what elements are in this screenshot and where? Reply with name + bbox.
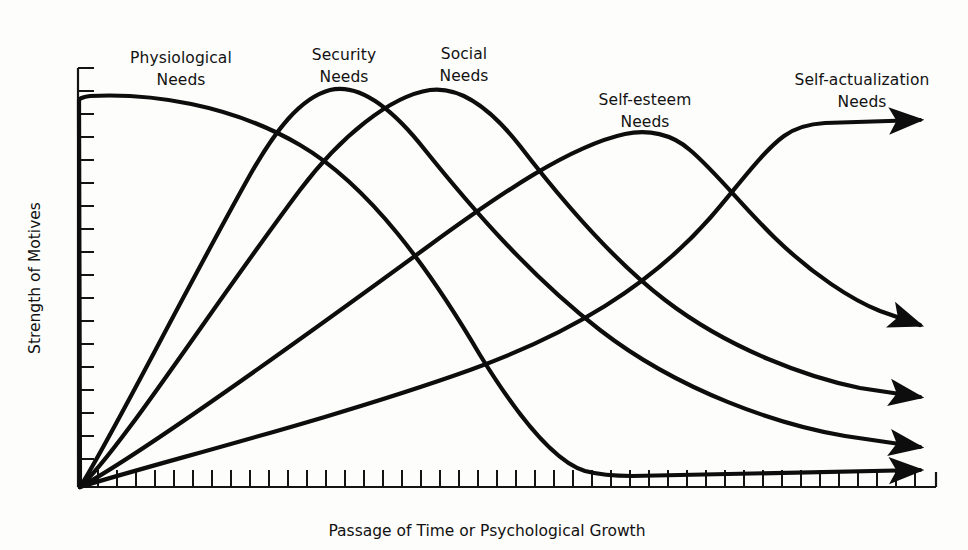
annotation-physiological-line2: Needs (156, 71, 205, 89)
annotation-self-esteem-line1: Self-esteem (599, 91, 692, 109)
annotation-security: Security Needs (312, 46, 376, 86)
annotation-physiological: Physiological Needs (130, 49, 232, 89)
y-axis-title: Strength of Motives (26, 202, 44, 354)
curve-self-actualization-needs (80, 120, 920, 487)
curve-security-needs (80, 89, 920, 487)
curve-self-esteem-needs (80, 132, 920, 487)
chart-svg: Physiological Needs Security Needs Socia… (0, 0, 968, 550)
curve-physiological-needs (79, 96, 920, 487)
curve-social-needs (80, 90, 920, 487)
annotation-self-actualization-line1: Self-actualization (794, 71, 929, 89)
annotation-security-line1: Security (312, 46, 376, 64)
annotation-social-line1: Social (441, 45, 488, 63)
x-axis-title: Passage of Time or Psychological Growth (328, 522, 645, 540)
annotation-self-esteem: Self-esteem Needs (599, 91, 692, 131)
annotation-social: Social Needs (439, 45, 488, 85)
maslow-motive-strength-chart: Physiological Needs Security Needs Socia… (0, 0, 968, 550)
annotation-security-line2: Needs (319, 68, 368, 86)
annotation-self-actualization: Self-actualization Needs (794, 71, 929, 111)
annotation-physiological-line1: Physiological (130, 49, 232, 67)
annotation-social-line2: Needs (439, 67, 488, 85)
annotation-self-actualization-line2: Needs (837, 93, 886, 111)
annotation-self-esteem-line2: Needs (620, 113, 669, 131)
